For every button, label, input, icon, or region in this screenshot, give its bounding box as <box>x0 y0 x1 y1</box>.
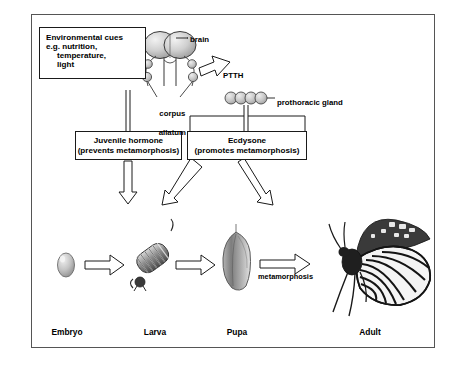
pupa-chrysalis <box>223 224 251 290</box>
environmental-cues-box: Environmental cues e.g. nutrition, tempe… <box>39 27 146 79</box>
corpus-allatum-label: corpus allatum <box>145 99 191 147</box>
corpus-allatum-leaders <box>148 82 192 97</box>
stage-label-pupa: Pupa <box>202 327 272 337</box>
corpus-allatum-line-2: allatum <box>159 128 186 137</box>
arrow-jh-to-larva <box>119 161 137 204</box>
stage-label-larva: Larva <box>120 327 190 337</box>
prothoracic-gland-organ <box>225 92 275 104</box>
ecdysone-box: Ecdysone (promotes metamorphosis) <box>187 131 307 160</box>
brain-label: brain <box>190 35 209 45</box>
adult-butterfly <box>329 219 430 316</box>
cue-line-2: e.g. nutrition, <box>46 42 145 51</box>
cue-line-1: Environmental cues <box>46 33 145 42</box>
connector-gland-to-ecdysone <box>190 105 305 131</box>
arrow-larva-to-pupa <box>176 255 215 275</box>
embryo-egg <box>58 253 75 277</box>
arrow-pupa-to-adult <box>260 254 310 274</box>
ptth-label: PTTH <box>223 71 243 81</box>
arrow-ecdysone-to-adult <box>238 158 273 205</box>
metamorphosis-diagram: Environmental cues e.g. nutrition, tempe… <box>0 0 466 368</box>
ecdysone-name: Ecdysone <box>188 136 306 145</box>
stage-label-embryo: Embryo <box>27 327 107 337</box>
cue-line-3: temperature, <box>46 51 145 60</box>
stage-label-adult: Adult <box>330 327 410 337</box>
cue-line-4: light <box>46 60 145 69</box>
larva-caterpillar <box>131 219 174 291</box>
metamorphosis-label: metamorphosis <box>258 272 313 281</box>
connector-ca-to-jh <box>126 90 130 131</box>
juvenile-hormone-effect: (prevents metamorphosis) <box>76 146 181 155</box>
ecdysone-effect: (promotes metamorphosis) <box>188 146 306 155</box>
corpus-allatum-line-1: corpus <box>159 109 185 118</box>
arrow-embryo-to-larva <box>85 255 124 275</box>
prothoracic-gland-label: prothoracic gland <box>277 98 343 108</box>
arrow-ecdysone-to-pupa <box>162 158 202 205</box>
